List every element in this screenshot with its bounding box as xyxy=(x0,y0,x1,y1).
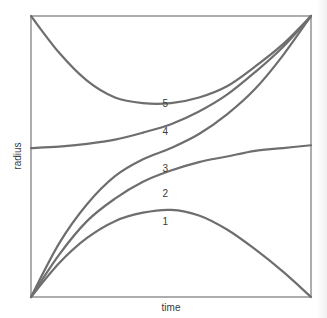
x-axis-label: time xyxy=(162,302,181,313)
y-axis-label: radius xyxy=(12,142,23,169)
curves-group xyxy=(31,16,311,297)
plot-frame xyxy=(31,16,311,297)
curve-label-3: 3 xyxy=(163,163,169,174)
curve-4 xyxy=(31,16,311,148)
radius-vs-time-chart: 12345 time radius xyxy=(0,0,327,318)
curve-label-2: 2 xyxy=(163,188,169,199)
curve-label-4: 4 xyxy=(163,126,169,137)
curve-labels-group: 12345 xyxy=(163,98,169,227)
curve-label-5: 5 xyxy=(163,98,169,109)
page-edge-shadow xyxy=(317,0,327,318)
curve-3 xyxy=(31,16,311,297)
curve-label-1: 1 xyxy=(163,216,169,227)
